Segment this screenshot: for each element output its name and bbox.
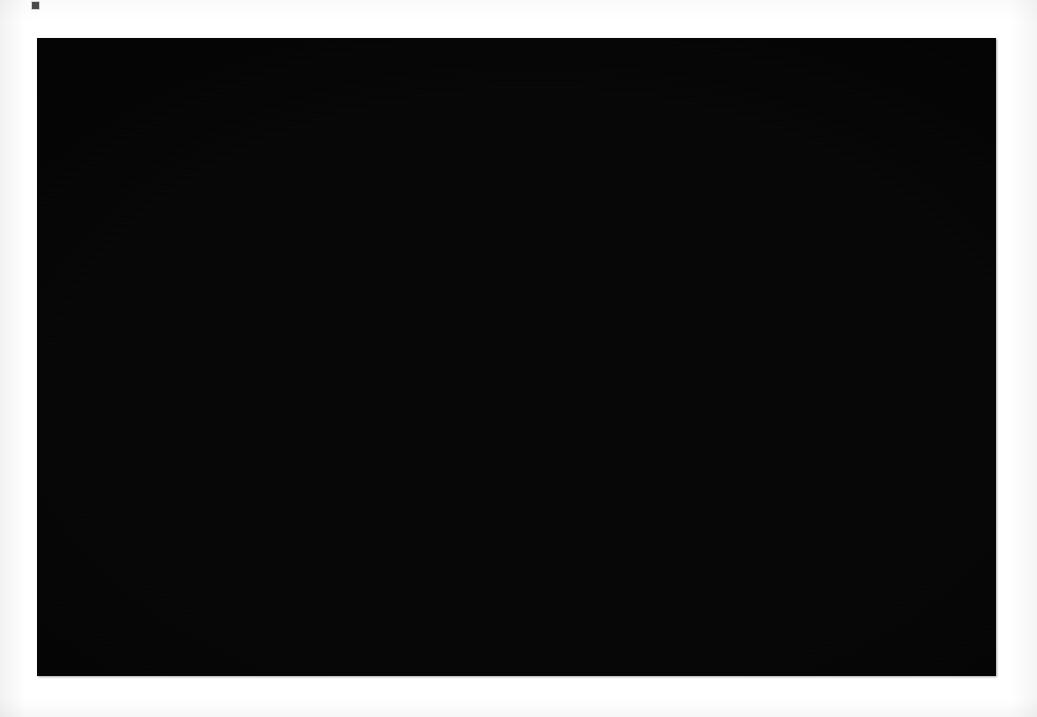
page-background: [0, 0, 1037, 717]
scene-background: [37, 38, 996, 676]
scan-artifact-mark: [31, 1, 40, 10]
network-map-scene: [37, 38, 996, 676]
figure-panel: [37, 38, 996, 676]
network-map-svg: [37, 38, 996, 676]
